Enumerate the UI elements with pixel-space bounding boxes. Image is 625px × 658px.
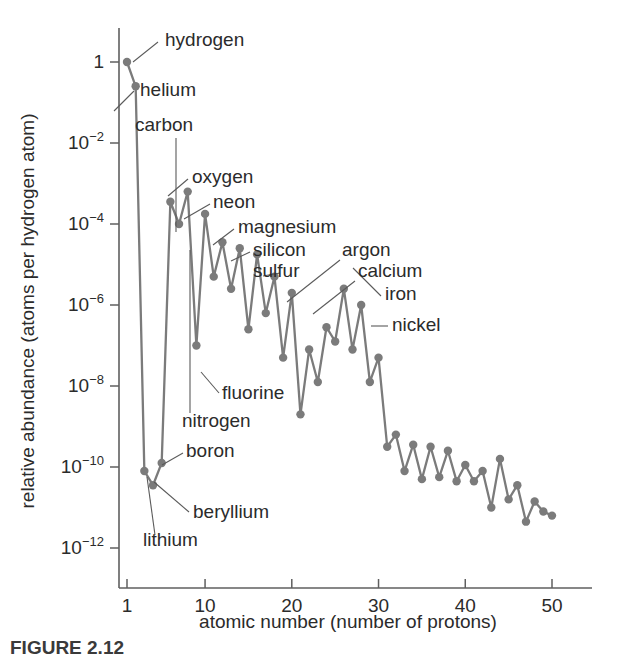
x-axis-ticks xyxy=(127,579,552,588)
data-point xyxy=(530,497,538,505)
data-point xyxy=(478,467,486,475)
data-point xyxy=(357,301,365,309)
x-axis-tick-label: 50 xyxy=(541,595,562,616)
data-point xyxy=(374,353,382,361)
y-axis-tick-label: 10−8 xyxy=(68,372,104,396)
element-label-neon: neon xyxy=(213,191,255,212)
x-axis-tick-label: 1 xyxy=(122,595,133,616)
element-label-beryllium: beryllium xyxy=(193,501,269,522)
data-point xyxy=(400,467,408,475)
data-point xyxy=(227,285,235,293)
y-axis-tick-label: 10−2 xyxy=(68,129,104,153)
data-point xyxy=(392,430,400,438)
data-point xyxy=(366,378,374,386)
data-point xyxy=(123,58,131,66)
element-label-nitrogen: nitrogen xyxy=(182,410,251,431)
data-point xyxy=(210,272,218,280)
data-point xyxy=(548,511,556,519)
y-axis-tick-label: 10−4 xyxy=(68,210,104,234)
data-point xyxy=(218,238,226,246)
data-point xyxy=(131,82,139,90)
y-axis-tick-label: 10−6 xyxy=(68,291,104,315)
y-axis-ticks xyxy=(110,62,119,548)
data-point xyxy=(470,477,478,485)
data-point xyxy=(444,447,452,455)
element-label-hydrogen: hydrogen xyxy=(165,29,244,50)
data-point xyxy=(383,443,391,451)
data-point xyxy=(262,309,270,317)
data-point xyxy=(149,481,157,489)
leader-line-fluorine xyxy=(201,372,219,393)
element-label-iron: iron xyxy=(385,283,417,304)
y-axis-tick-label: 10−12 xyxy=(61,534,104,558)
data-point xyxy=(184,187,192,195)
x-axis-title: atomic number (number of protons) xyxy=(199,611,497,632)
element-annotations: hydrogenheliumcarbonoxygenneonmagnesiums… xyxy=(135,29,441,550)
data-point xyxy=(331,337,339,345)
figure-caption: FIGURE 2.12 xyxy=(10,637,124,658)
data-point xyxy=(279,353,287,361)
element-label-sulfur: sulfur xyxy=(253,260,300,281)
element-label-boron: boron xyxy=(186,440,235,461)
leader-line-hydrogen xyxy=(133,42,158,62)
data-point xyxy=(201,210,209,218)
data-point xyxy=(452,477,460,485)
leader-line-calcium xyxy=(313,281,355,314)
data-point xyxy=(236,244,244,252)
element-label-calcium: calcium xyxy=(358,260,422,281)
data-point xyxy=(522,517,530,525)
data-point xyxy=(348,345,356,353)
figure-container: 110−210−410−610−810−1010−12 11020304050 … xyxy=(0,0,625,658)
data-point xyxy=(513,481,521,489)
y-axis-tick-label: 1 xyxy=(93,51,104,72)
data-point xyxy=(166,198,174,206)
data-point xyxy=(244,325,252,333)
data-point xyxy=(435,473,443,481)
element-label-argon: argon xyxy=(342,239,391,260)
data-point xyxy=(314,378,322,386)
data-point xyxy=(504,495,512,503)
element-label-nickel: nickel xyxy=(392,314,441,335)
leader-line-boron xyxy=(162,453,183,465)
element-label-fluorine: fluorine xyxy=(222,382,284,403)
y-axis-tick-labels: 110−210−410−610−810−1010−12 xyxy=(61,51,104,558)
data-point xyxy=(426,443,434,451)
data-point xyxy=(418,475,426,483)
element-label-oxygen: oxygen xyxy=(192,166,253,187)
element-label-silicon: silicon xyxy=(253,239,306,260)
data-point xyxy=(296,410,304,418)
data-point xyxy=(539,507,547,515)
element-label-carbon: carbon xyxy=(135,114,193,135)
data-point xyxy=(140,467,148,475)
y-axis-title: relative abundance (atoms per hydrogen a… xyxy=(17,113,38,508)
y-axis-tick-label: 10−10 xyxy=(61,453,104,477)
data-point xyxy=(461,461,469,469)
data-point xyxy=(487,503,495,511)
leader-line-beryllium xyxy=(154,482,189,512)
data-point xyxy=(192,341,200,349)
leader-line-helium xyxy=(114,91,134,111)
element-label-magnesium: magnesium xyxy=(238,216,336,237)
element-label-helium: helium xyxy=(140,79,196,100)
data-point xyxy=(322,323,330,331)
abundance-chart: 110−210−410−610−810−1010−12 11020304050 … xyxy=(0,0,625,658)
data-point xyxy=(409,441,417,449)
data-point xyxy=(305,345,313,353)
data-point xyxy=(496,455,504,463)
element-label-lithium: lithium xyxy=(143,529,198,550)
